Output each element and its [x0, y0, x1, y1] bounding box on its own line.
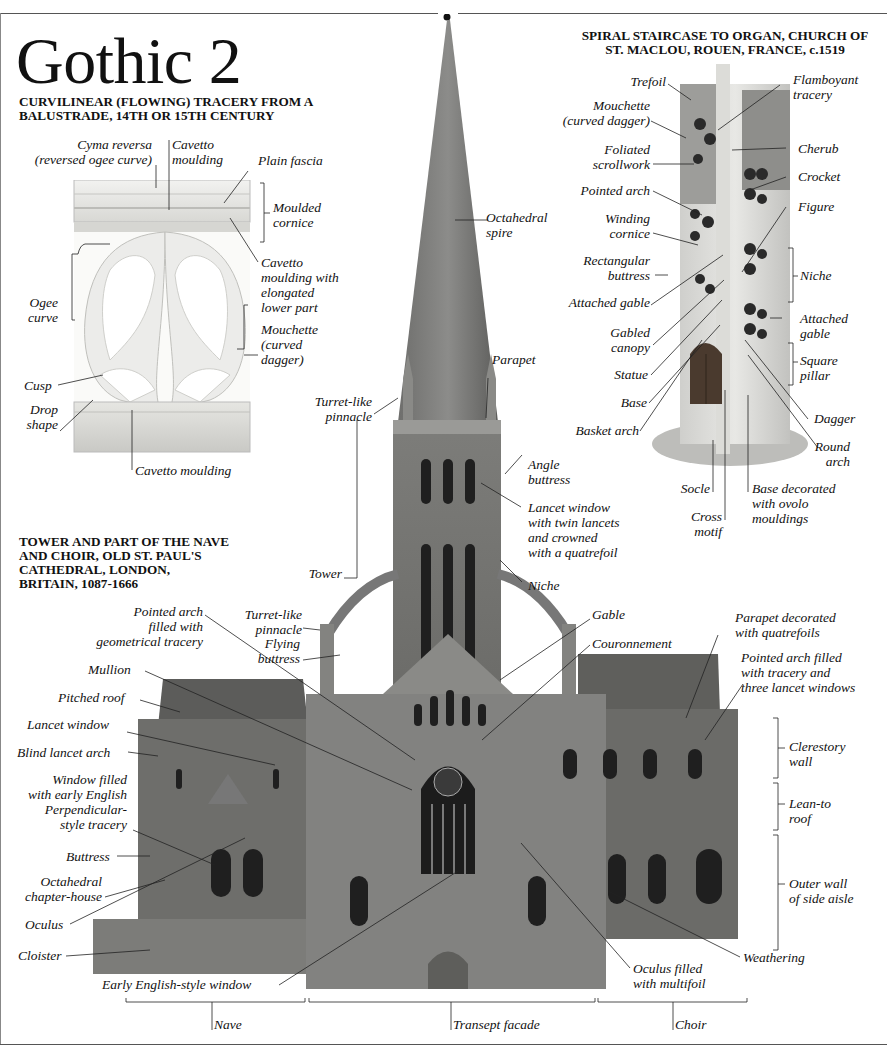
label-ogee-curve: Ogee curve	[18, 295, 58, 325]
label-pointed-arch-stair: Pointed arch	[560, 183, 650, 198]
label-turret-pinnacle-low: Turret-like pinnacle	[220, 607, 302, 637]
label-moulded-cornice: Moulded cornice	[273, 200, 321, 230]
label-niche: Niche	[528, 578, 560, 593]
label-cyma-reversa: Cyma reversa (reversed ogee curve)	[18, 137, 152, 167]
label-statue: Statue	[560, 367, 648, 382]
label-flying-buttress: Flying buttress	[220, 636, 300, 666]
label-attached-gable-left: Attached gable	[540, 295, 650, 310]
label-cloister: Cloister	[18, 948, 62, 963]
label-crocket: Crocket	[798, 169, 840, 184]
label-cross-motif: Cross motif	[670, 509, 722, 539]
label-niche-stair: Niche	[800, 268, 832, 283]
label-cavetto-moulding-top: Cavetto moulding	[172, 137, 223, 167]
label-round-arch: Round arch	[810, 439, 850, 469]
label-plain-fascia: Plain fascia	[258, 153, 323, 168]
label-parapet-quatrefoils: Parapet decorated with quatrefoils	[735, 610, 836, 640]
label-gabled-canopy: Gabled canopy	[560, 325, 650, 355]
label-flamboyant-tracery: Flamboyant tracery	[793, 72, 858, 102]
label-blind-lancet-arch: Blind lancet arch	[17, 745, 110, 760]
label-tower: Tower	[290, 566, 342, 581]
label-winding-cornice: Winding cornice	[560, 211, 650, 241]
label-socle: Socle	[660, 481, 710, 496]
label-dagger: Dagger	[814, 411, 855, 426]
label-early-english-window: Early English-style window	[102, 977, 251, 992]
label-clerestory-wall: Clerestory wall	[789, 739, 846, 769]
label-choir: Choir	[675, 1017, 707, 1032]
label-octahedral-spire: Octahedral spire	[486, 210, 548, 240]
label-foliated-scrollwork: Foliated scrollwork	[560, 142, 650, 172]
label-cavetto-elongated: Cavetto moulding with elongated lower pa…	[261, 255, 339, 315]
label-trefoil: Trefoil	[600, 74, 666, 89]
label-weathering: Weathering	[743, 950, 805, 965]
label-oculus-multifoil: Oculus filled with multifoil	[633, 961, 705, 991]
label-parapet: Parapet	[492, 352, 536, 367]
label-angle-buttress: Angle buttress	[528, 457, 570, 487]
label-mouchette-stair: Mouchette (curved dagger)	[540, 98, 650, 128]
label-turret-pinnacle-top: Turret-like pinnacle	[290, 394, 372, 424]
label-couronnement: Couronnement	[592, 636, 672, 651]
label-pointed-arch-geometrical: Pointed arch filled with geometrical tra…	[70, 604, 203, 649]
label-pitched-roof: Pitched roof	[58, 690, 125, 705]
label-square-pillar: Square pillar	[800, 353, 838, 383]
label-oculus: Oculus	[25, 917, 63, 932]
label-basket-arch: Basket arch	[540, 423, 639, 438]
label-rectangular-buttress: Rectangular buttress	[550, 253, 650, 283]
label-octahedral-chapter-house: Octahedral chapter-house	[0, 874, 102, 904]
label-cherub: Cherub	[798, 141, 839, 156]
label-buttress: Buttress	[66, 849, 110, 864]
label-mouchette: Mouchette (curved dagger)	[261, 322, 318, 367]
label-outer-wall: Outer wall of side aisle	[789, 876, 854, 906]
label-lancet-window: Lancet window	[27, 717, 109, 732]
label-base-stair: Base	[560, 395, 647, 410]
label-attached-gable-right: Attached gable	[800, 311, 848, 341]
label-transept-facade: Transept facade	[453, 1017, 540, 1032]
label-cavetto-moulding-bottom: Cavetto moulding	[135, 463, 231, 478]
label-window-early-english: Window filled with early English Perpend…	[0, 772, 127, 832]
label-figure: Figure	[798, 199, 834, 214]
label-base-decorated: Base decorated with ovolo mouldings	[752, 481, 836, 526]
label-pointed-arch-three-lancet: Pointed arch filled with tracery and thr…	[741, 650, 855, 695]
label-lean-to-roof: Lean-to roof	[789, 796, 831, 826]
label-cusp: Cusp	[24, 378, 52, 393]
label-drop-shape: Drop shape	[18, 402, 58, 432]
label-nave: Nave	[214, 1017, 242, 1032]
label-lancet-twin: Lancet window with twin lancets and crow…	[528, 500, 620, 560]
label-gable: Gable	[592, 607, 625, 622]
label-mullion: Mullion	[88, 662, 131, 677]
